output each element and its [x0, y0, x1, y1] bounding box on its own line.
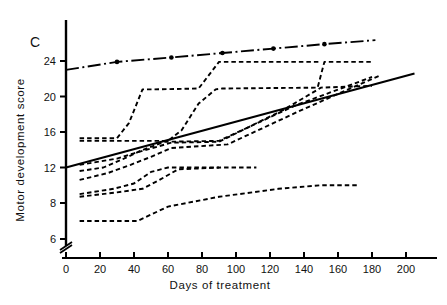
- series-patient-6: [80, 168, 219, 195]
- y-tick-label: 8: [50, 197, 56, 209]
- axes: [60, 20, 437, 258]
- x-tick-label: 200: [397, 263, 415, 275]
- y-axis-title: Motor development score: [14, 78, 26, 222]
- x-tick-label: 180: [363, 263, 381, 275]
- x-axis-title: Days of treatment: [170, 279, 271, 291]
- y-tick-label: 6: [50, 233, 56, 245]
- x-tick-label: 100: [227, 263, 245, 275]
- data-point-marker: [169, 55, 174, 60]
- series-patient-7: [80, 168, 257, 197]
- y-tick-label: 12: [44, 162, 56, 174]
- data-point-marker: [322, 42, 327, 47]
- y-ticks: 6812162024: [44, 55, 66, 245]
- x-tick-label: 140: [295, 263, 313, 275]
- data-point-marker: [220, 51, 225, 56]
- panel-label: C: [30, 34, 40, 50]
- data-point-marker: [115, 60, 120, 65]
- y-tick-label: 16: [44, 126, 56, 138]
- x-tick-label: 40: [128, 263, 140, 275]
- series-reference-line-top: [66, 40, 375, 70]
- y-tick-label: 20: [44, 91, 56, 103]
- x-tick-label: 120: [261, 263, 279, 275]
- series-patient-8: [80, 185, 359, 221]
- figure-panel-c: 6812162024020406080100120140160180200Day…: [0, 0, 447, 305]
- x-tick-label: 0: [63, 263, 69, 275]
- series-patient-1: [80, 62, 321, 138]
- x-ticks: 020406080100120140160180200: [63, 252, 415, 275]
- x-tick-label: 60: [162, 263, 174, 275]
- data-series-group: [66, 40, 415, 221]
- data-point-marker: [271, 46, 276, 51]
- x-tick-label: 160: [329, 263, 347, 275]
- y-tick-label: 24: [44, 55, 56, 67]
- motor-development-chart: 6812162024020406080100120140160180200Day…: [0, 0, 447, 305]
- x-tick-label: 80: [196, 263, 208, 275]
- x-tick-label: 20: [94, 263, 106, 275]
